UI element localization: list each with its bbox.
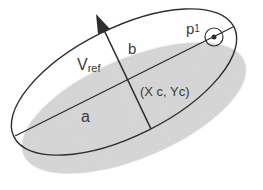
diagram-canvas: p1 b Vref (X c, Yc) a: [0, 0, 263, 190]
label-vref: Vref: [77, 56, 101, 74]
ellipse-diagram: p1 b Vref (X c, Yc) a: [0, 0, 263, 190]
p1-point-icon: [212, 35, 217, 40]
label-b: b: [128, 40, 136, 57]
label-center: (X c, Yc): [140, 84, 190, 99]
vref-arrow-head-icon: [96, 14, 110, 34]
label-a: a: [81, 108, 90, 125]
label-p1: p1: [186, 20, 200, 37]
